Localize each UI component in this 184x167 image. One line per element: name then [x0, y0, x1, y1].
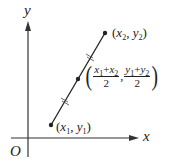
midpoint-x-denominator: 2 [93, 77, 119, 89]
midpoint-y-fraction: y1+y2 2 [124, 64, 150, 89]
midpoint-label: ( x1+x2 2 , y1+y2 2 ) [84, 62, 160, 90]
point-p1-dot [49, 123, 53, 127]
p2-sub-y: 2 [138, 33, 142, 42]
point-p2-label: (x2, y2) [112, 26, 147, 39]
p1-sub-y: 1 [82, 127, 86, 136]
x-num-b-sub: 2 [114, 69, 118, 78]
midpoint-y-denominator: 2 [124, 77, 150, 89]
y-axis-label: y [24, 3, 31, 18]
y-axis-arrow-icon [25, 21, 31, 31]
midpoint-open-paren: ( [85, 62, 92, 90]
x-axis-label: x [143, 129, 150, 144]
p2-close-paren: ) [142, 25, 146, 40]
x-axis-arrow-icon [129, 135, 139, 141]
midpoint-x-fraction: x1+x2 2 [93, 64, 119, 89]
y-num-a-sub: 1 [130, 69, 134, 78]
midpoint-x-numerator: x1+x2 [93, 64, 119, 77]
p1-sub-x: 1 [66, 127, 70, 136]
origin-label: O [10, 144, 21, 159]
midpoint-dot [76, 77, 80, 81]
p2-sub-x: 2 [122, 33, 126, 42]
midpoint-close-paren: ) [152, 62, 159, 90]
point-p1-label: (x1, y1) [56, 120, 91, 133]
x-num-a-sub: 1 [99, 69, 103, 78]
midpoint-y-numerator: y1+y2 [124, 64, 150, 77]
p1-close-paren: ) [86, 119, 90, 134]
midpoint-diagram: y x O (x2, y2) (x1, y1) ( x1+x2 2 , y1+y… [0, 0, 184, 167]
point-p2-dot [103, 31, 107, 35]
midpoint-comma: , [120, 70, 123, 82]
y-num-b-sub: 2 [145, 69, 149, 78]
